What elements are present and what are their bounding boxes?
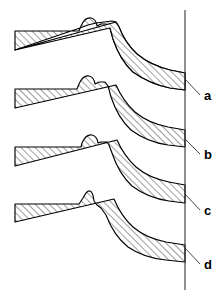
cross-section-diagram: a b c d (0, 0, 222, 296)
figure-root: a b c d (0, 0, 222, 296)
label-c: c (204, 203, 211, 218)
label-a: a (204, 88, 212, 103)
label-d: d (204, 257, 212, 272)
label-b: b (204, 147, 212, 162)
